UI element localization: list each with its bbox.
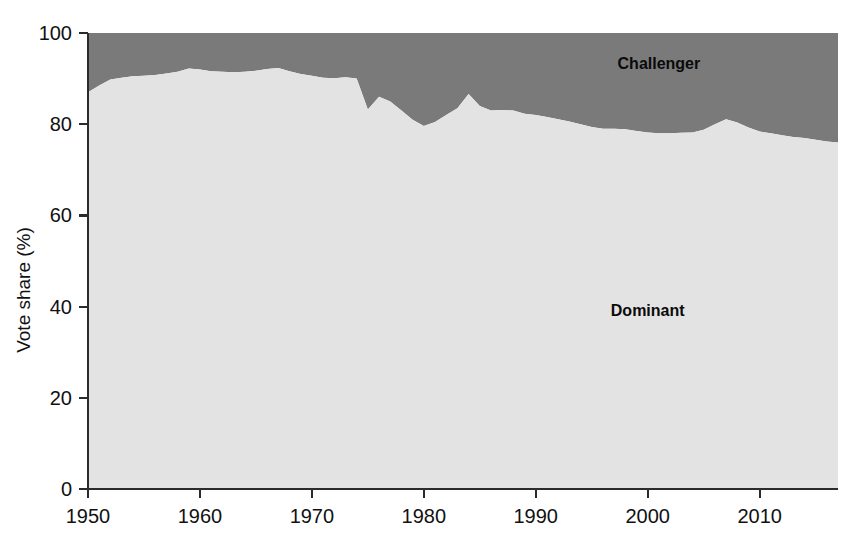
plot-areas xyxy=(88,33,838,489)
x-tick-label: 1980 xyxy=(402,505,447,527)
chart-container: 020406080100 195019601970198019902000201… xyxy=(0,0,866,554)
area-dominant xyxy=(88,68,838,489)
y-axis-tick-labels: 020406080100 xyxy=(39,22,72,500)
x-tick-label: 1970 xyxy=(290,505,335,527)
x-tick-label: 1950 xyxy=(66,505,111,527)
y-tick-label: 100 xyxy=(39,22,72,44)
series-label-dominant: Dominant xyxy=(611,302,685,319)
y-tick-label: 20 xyxy=(50,387,72,409)
series-label-challenger: Challenger xyxy=(618,55,701,72)
x-tick-label: 2010 xyxy=(737,505,782,527)
y-axis-ticks xyxy=(79,33,88,489)
x-tick-label: 1960 xyxy=(178,505,223,527)
stacked-area-chart: 020406080100 195019601970198019902000201… xyxy=(0,0,866,554)
x-tick-label: 1990 xyxy=(514,505,559,527)
y-tick-label: 0 xyxy=(61,478,72,500)
y-tick-label: 80 xyxy=(50,113,72,135)
y-axis-title: Vote share (%) xyxy=(13,227,34,353)
x-axis-tick-labels: 1950196019701980199020002010 xyxy=(66,505,782,527)
x-tick-label: 2000 xyxy=(625,505,670,527)
x-axis-ticks xyxy=(88,489,760,498)
y-tick-label: 40 xyxy=(50,296,72,318)
y-tick-label: 60 xyxy=(50,204,72,226)
